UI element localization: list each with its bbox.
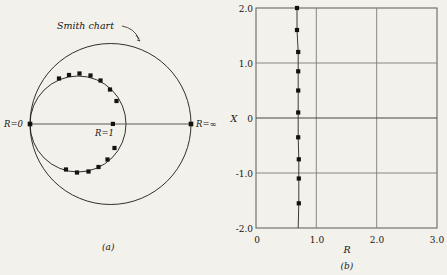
smith-chart-leader-arrow <box>136 35 140 41</box>
ytick-label-0: 0 <box>247 114 253 124</box>
data-point <box>88 73 92 77</box>
label-r-one: R=1 <box>94 128 114 138</box>
axis-marker-r-one <box>111 122 115 126</box>
data-point <box>114 99 118 103</box>
xtick-label-0: 0 <box>254 235 260 245</box>
data-point <box>64 167 68 171</box>
data-point <box>297 176 301 180</box>
data-point <box>77 71 81 75</box>
data-point <box>112 146 116 150</box>
xtick-label-1: 1.0 <box>310 235 325 245</box>
data-point <box>57 76 61 80</box>
axis-marker-r-zero <box>28 122 33 127</box>
data-point <box>67 73 71 77</box>
ytick-label-2: 2.0 <box>239 4 254 14</box>
data-point <box>296 88 300 92</box>
data-point <box>96 165 100 169</box>
label-r-infinity: R=∞ <box>195 119 217 129</box>
axis-marker-r-infinity <box>189 122 194 127</box>
panel-b-group: 2.0 1.0 0 -1.0 -2.0 0 1.0 2.0 3.0 X R (b… <box>230 4 445 272</box>
figure-svg: Smith chart R=0 R=1 R=∞ (a) <box>0 0 447 275</box>
data-point <box>296 135 300 139</box>
data-point <box>108 87 112 91</box>
ytick-label-1: 1.0 <box>239 59 254 69</box>
data-point <box>295 6 299 10</box>
xtick-label-3: 3.0 <box>430 235 445 245</box>
x-axis-title: R <box>342 244 350 255</box>
data-point <box>295 28 299 32</box>
y-axis-title: X <box>230 113 239 124</box>
panel-a-group: Smith chart R=0 R=1 R=∞ (a) <box>3 20 217 252</box>
panel-b-caption: (b) <box>341 261 354 271</box>
data-point <box>296 50 300 54</box>
data-point <box>75 170 79 174</box>
xtick-label-2: 2.0 <box>370 235 385 245</box>
data-point <box>86 169 90 173</box>
ytick-label-minus-1: -1.0 <box>236 169 254 179</box>
data-point <box>105 157 109 161</box>
data-point <box>297 157 301 161</box>
data-point <box>297 201 301 205</box>
data-point <box>98 78 102 82</box>
panel-a-data-points <box>57 71 119 174</box>
figure-container: Smith chart R=0 R=1 R=∞ (a) <box>0 0 447 275</box>
ytick-label-minus-2: -2.0 <box>236 224 254 234</box>
data-point <box>296 110 300 114</box>
data-point <box>296 69 300 73</box>
panel-a-caption: (a) <box>102 242 115 252</box>
label-r-zero: R=0 <box>3 119 24 129</box>
smith-chart-leader-line <box>122 26 139 39</box>
smith-chart-annotation: Smith chart <box>57 20 114 31</box>
